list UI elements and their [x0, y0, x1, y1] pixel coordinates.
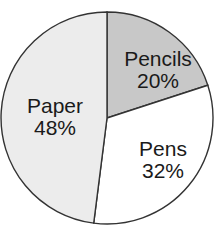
- label-paper-name: Paper: [10, 95, 100, 117]
- label-pencils-name: Pencils: [108, 48, 208, 70]
- label-pens: Pens 32%: [118, 138, 208, 182]
- label-pencils: Pencils 20%: [108, 48, 208, 92]
- label-pens-name: Pens: [118, 138, 208, 160]
- label-pencils-pct: 20%: [108, 70, 208, 92]
- label-pens-pct: 32%: [118, 160, 208, 182]
- label-paper-pct: 48%: [10, 117, 100, 139]
- label-paper: Paper 48%: [10, 95, 100, 139]
